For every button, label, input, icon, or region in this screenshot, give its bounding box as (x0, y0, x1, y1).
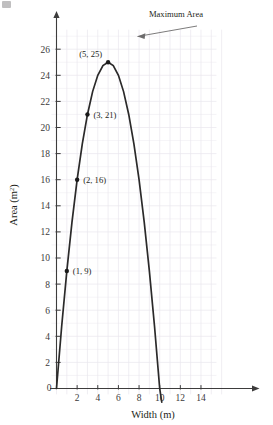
x-tick-label: 14 (196, 393, 206, 403)
annotation-arrowhead (138, 33, 146, 39)
y-axis-arrowhead (53, 11, 59, 18)
x-tick-label: 12 (176, 393, 186, 403)
data-point-marker (65, 269, 69, 273)
y-tick-label: 16 (41, 175, 51, 185)
x-tick-label: 8 (137, 393, 142, 403)
data-point-marker (85, 112, 89, 116)
y-tick-label: 4 (45, 332, 50, 342)
data-point-label: (3, 21) (93, 110, 116, 120)
y-tick-label: 20 (41, 123, 51, 133)
x-tick-label: 0 (47, 383, 52, 393)
x-tick-label: 6 (116, 393, 121, 403)
data-point-marker (106, 60, 110, 64)
chart-container: 024681012142468101214161820222426 (1, 9)… (0, 0, 273, 425)
y-tick-label: 24 (41, 71, 51, 81)
y-tick-label: 14 (41, 201, 51, 211)
grid-lines (51, 30, 221, 395)
y-tick-label: 6 (45, 306, 50, 316)
y-tick-label: 8 (45, 280, 50, 290)
x-tick-label: 2 (75, 393, 80, 403)
axis-titles: Width (m) Area (m2) (8, 184, 176, 421)
annotation-arrow-line (138, 26, 198, 37)
x-tick-label: 4 (95, 393, 100, 403)
data-point-label: (1, 9) (73, 266, 92, 276)
parabola-chart-svg: 024681012142468101214161820222426 (1, 9)… (0, 0, 273, 425)
data-point-marker (75, 178, 79, 182)
y-tick-label: 18 (41, 149, 51, 159)
y-tick-label: 2 (45, 358, 50, 368)
x-axis-arrowhead (252, 385, 260, 391)
annotation-label: Maximum Area (149, 9, 203, 19)
maximum-area-annotation: Maximum Area (138, 9, 204, 39)
y-tick-label: 22 (41, 97, 51, 107)
y-tick-label: 26 (41, 45, 51, 55)
x-axis-title: Width (m) (131, 409, 175, 421)
y-axis-title: Area (m2) (8, 184, 20, 226)
data-point-label: (5, 25) (79, 49, 102, 59)
marked-points: (1, 9)(2, 16)(3, 21)(5, 25) (65, 49, 117, 277)
data-point-label: (2, 16) (83, 175, 106, 185)
y-tick-label: 12 (41, 227, 51, 237)
y-tick-label: 10 (41, 253, 51, 263)
